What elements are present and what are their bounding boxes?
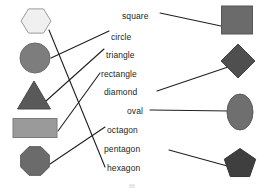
- connector-pentagon-to-pentagon[interactable]: [169, 150, 231, 167]
- left-shape-triangle[interactable]: [18, 81, 51, 109]
- label-rectangle[interactable]: rectangle: [101, 70, 137, 79]
- label-circle[interactable]: circle: [111, 33, 131, 42]
- right-shape-diamond[interactable]: [221, 44, 255, 78]
- right-shape-pentagon[interactable]: [224, 149, 255, 177]
- left-shape-octagon[interactable]: [21, 147, 50, 176]
- label-hexagon[interactable]: hexagon: [107, 164, 140, 173]
- connector-square-to-square[interactable]: [160, 13, 221, 26]
- label-triangle[interactable]: triangle: [106, 51, 135, 60]
- connector-circle-to-circle[interactable]: [51, 31, 109, 58]
- label-diamond[interactable]: diamond: [104, 88, 137, 97]
- shape-matching-worksheet: squarecircletrianglerectanglediamondoval…: [0, 0, 264, 191]
- connector-oval-to-oval[interactable]: [150, 110, 231, 111]
- label-octagon[interactable]: octagon: [107, 126, 138, 135]
- connector-rectangle-to-rectangle[interactable]: [58, 73, 100, 131]
- left-shape-circle[interactable]: [20, 43, 50, 73]
- label-oval[interactable]: oval: [127, 107, 143, 116]
- connector-diamond-to-diamond[interactable]: [157, 66, 231, 91]
- page-number: 88: [0, 183, 264, 189]
- left-shape-hexagon[interactable]: [21, 9, 51, 33]
- left-shape-rectangle[interactable]: [13, 119, 57, 138]
- right-shape-square[interactable]: [222, 6, 253, 34]
- right-shape-oval[interactable]: [227, 94, 253, 130]
- label-square[interactable]: square: [122, 12, 149, 21]
- label-pentagon[interactable]: pentagon: [104, 145, 140, 154]
- right-shape-column: [221, 6, 256, 177]
